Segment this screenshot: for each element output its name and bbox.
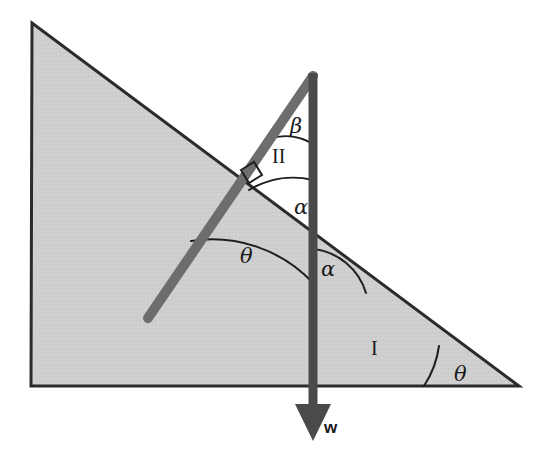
- geometry-figure: β II α θ α I θ w: [0, 0, 536, 467]
- figure-canvas: [0, 0, 536, 467]
- angle-label-theta-rod: θ: [240, 246, 253, 267]
- inclined-plane-triangle: [31, 23, 519, 386]
- weight-vector-label: w: [324, 419, 337, 436]
- arc-alpha-upper: [249, 178, 313, 190]
- angle-label-alpha-upper: α: [294, 197, 308, 218]
- region-label-two: II: [272, 146, 285, 166]
- angle-label-beta: β: [290, 116, 302, 137]
- region-label-one: I: [371, 338, 378, 358]
- angle-label-alpha-lower: α: [321, 259, 335, 280]
- angle-label-theta-base: θ: [454, 364, 467, 385]
